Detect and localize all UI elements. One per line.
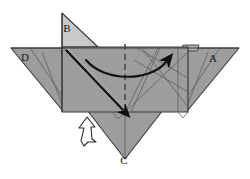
origami-figure: A B C D (0, 0, 250, 179)
label-d: D (21, 51, 29, 63)
crease-notch-right (178, 112, 188, 118)
push-in-arrow (79, 117, 96, 146)
label-b: B (63, 22, 70, 34)
origami-diagram-canvas: A B C D (0, 0, 250, 179)
label-a: A (209, 52, 217, 64)
label-c: C (120, 154, 127, 166)
